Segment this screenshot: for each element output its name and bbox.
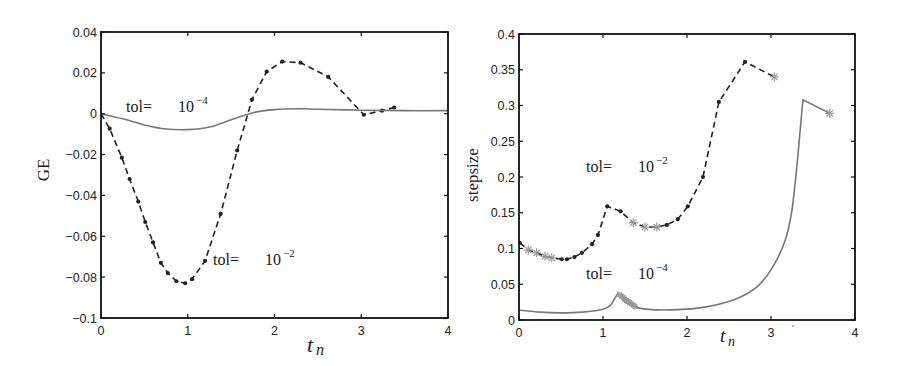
x-label-t: t [720,325,726,346]
y-tick-label: 0 [90,107,97,121]
rejected-step-star-marker [532,248,541,257]
series-line-tol-1e-4 [101,109,448,130]
rejected-step-star-marker [524,245,533,254]
data-point-marker [108,127,112,131]
left-x-axis-label: t n [307,332,324,358]
data-point-marker [190,277,194,281]
data-point-marker [265,70,269,74]
rejected-step-star-marker [825,109,834,118]
data-point-marker [143,220,147,224]
x-label-sub: n [728,334,735,349]
x-tick-label: 1 [600,326,607,340]
data-point-marker [326,75,330,79]
annotation-tol: tol= [586,158,612,175]
rejected-step-star-marker [652,223,661,232]
rejected-step-star-marker [770,72,779,81]
annotation-base: 10 [265,251,281,268]
left-annotation-tol-1e-4: tol= 10 −4 [126,94,208,115]
data-point-marker [250,98,254,102]
x-tick-label: 3 [358,324,365,338]
right-x-axis-label: t n [720,325,735,349]
data-point-marker [676,217,680,221]
y-tick-label: 0 [508,314,515,328]
data-point-marker [219,212,223,216]
series-line-tol-1e-4 [519,100,830,313]
y-tick-label: −0.1 [72,312,97,326]
data-point-marker [203,259,207,263]
data-point-marker [120,156,124,160]
right-plot-area [518,60,835,313]
annotation-tol: tol= [586,265,612,282]
rejected-step-star-marker [641,223,650,232]
left-chart-panel: 01234−0.1−0.08−0.06−0.04−0.0200.020.04 [65,26,451,339]
data-point-marker [183,281,187,285]
x-tick-label: 4 [852,326,859,340]
y-tick-label: 0.02 [73,66,97,80]
right-axes-frame [519,34,855,320]
data-point-marker [128,177,132,181]
x-tick-label: 0 [98,324,105,338]
data-point-marker [717,100,721,104]
annotation-base: 10 [638,158,654,175]
data-point-marker [362,113,366,117]
scan-speck [792,325,794,327]
data-point-marker [166,271,170,275]
rejected-step-star-marker [632,303,638,309]
data-point-marker [743,60,747,64]
annotation-exponent: −4 [196,94,208,106]
data-point-marker [235,148,239,152]
figure: 01234−0.1−0.08−0.06−0.04−0.0200.020.04 0… [0,0,898,366]
left-y-axis-label: GE [34,159,53,182]
right-y-axis-label: stepsize [463,148,482,202]
right-annotation-tol-1e-4: tol= 10 −4 [586,261,668,282]
data-point-marker [605,204,609,208]
annotation-base: 10 [178,98,194,115]
data-point-marker [136,199,140,203]
annotation-exponent: −2 [283,247,295,259]
data-point-marker [565,257,569,261]
rejected-step-star-marker [547,253,556,262]
x-tick-label: 1 [184,324,191,338]
y-tick-label: −0.04 [65,189,97,203]
data-point-marker [174,279,178,283]
right-chart-panel: 0123400.050.10.150.20.250.30.350.4 [491,28,859,341]
y-tick-label: 0.04 [73,26,97,40]
annotation-tol: tol= [213,251,239,268]
y-tick-label: −0.08 [65,271,97,285]
y-tick-label: 0.35 [491,63,515,77]
series-line-tol-1e-2 [101,62,394,284]
data-point-marker [280,60,284,64]
data-point-marker [392,105,396,109]
data-point-marker [151,240,155,244]
x-label-t: t [307,332,314,357]
data-point-marker [572,255,576,259]
rejected-step-star-marker [541,252,550,261]
annotation-tol: tol= [126,98,152,115]
y-tick-label: 0.2 [498,171,515,185]
x-label-sub: n [316,341,324,358]
y-tick-label: 0.25 [491,135,515,149]
right-annotation-tol-1e-2: tol= 10 −2 [586,154,668,175]
x-tick-label: 3 [768,326,775,340]
annotation-base: 10 [638,265,654,282]
left-axes-frame [101,32,448,318]
y-tick-label: 0.3 [498,99,515,113]
left-annotation-tol-1e-2: tol= 10 −2 [213,247,295,268]
y-tick-label: 0.4 [498,28,515,42]
x-tick-label: 4 [445,324,452,338]
y-tick-label: 0.1 [498,242,515,256]
data-point-marker [298,61,302,65]
data-point-marker [596,233,600,237]
y-tick-label: 0.05 [491,278,515,292]
annotation-exponent: −4 [656,261,668,273]
x-tick-label: 2 [684,326,691,340]
x-tick-label: 2 [271,324,278,338]
y-tick-label: −0.02 [65,148,97,162]
x-tick-label: 0 [516,326,523,340]
data-point-marker [665,223,669,227]
rejected-step-star-marker [629,218,638,227]
y-tick-label: 0.15 [491,206,515,220]
data-point-marker [560,257,564,261]
y-tick-label: −0.06 [65,230,97,244]
data-point-marker [686,204,690,208]
